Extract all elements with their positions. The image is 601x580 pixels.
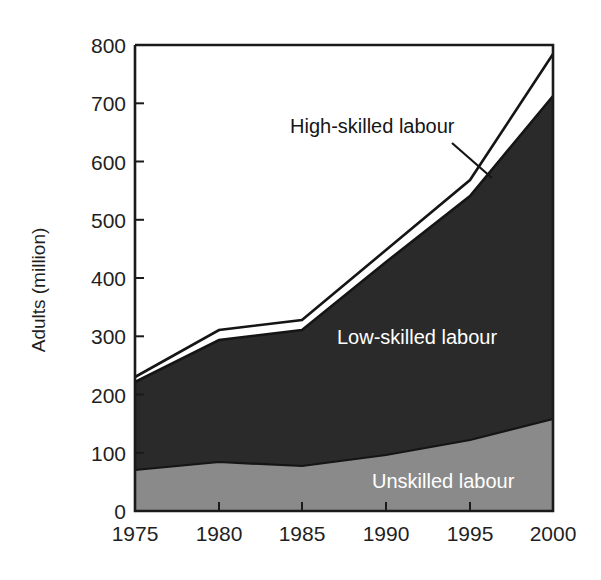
area-chart: 0 100 200 300 400 500 600 700 800 1975 1…: [0, 0, 601, 580]
x-tick-label-1975: 1975: [112, 522, 159, 545]
y-tick-label-600: 600: [91, 151, 126, 174]
y-tick-label-800: 800: [91, 34, 126, 57]
y-tick-label-100: 100: [91, 442, 126, 465]
y-tick-label-700: 700: [91, 92, 126, 115]
x-tick-label-2000: 2000: [530, 522, 577, 545]
series-annotation-low-skilled: Low-skilled labour: [337, 326, 497, 348]
series-annotation-high-skilled: High-skilled labour: [290, 115, 455, 137]
chart-container: 0 100 200 300 400 500 600 700 800 1975 1…: [0, 0, 601, 580]
x-tick-label-1985: 1985: [279, 522, 326, 545]
y-axis-title: Adults (million): [28, 228, 49, 353]
x-tick-label-1990: 1990: [363, 522, 410, 545]
series-annotation-unskilled: Unskilled labour: [372, 470, 515, 492]
y-tick-label-200: 200: [91, 384, 126, 407]
x-tick-label-1980: 1980: [196, 522, 243, 545]
y-tick-label-500: 500: [91, 209, 126, 232]
x-tick-label-1995: 1995: [447, 522, 494, 545]
y-tick-label-300: 300: [91, 325, 126, 348]
y-tick-label-0: 0: [114, 500, 126, 523]
y-tick-label-400: 400: [91, 267, 126, 290]
